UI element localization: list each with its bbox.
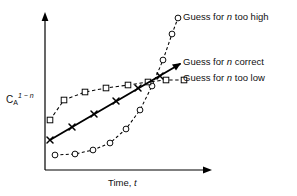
figure-container: CA1 − n Time, t Guess for n too high Gue… [0, 0, 297, 196]
annotation-n-too-low-variable: n [227, 72, 232, 83]
annotation-n-too-high-suffix: too high [235, 11, 269, 22]
x-axis-label: Time, t [108, 178, 137, 188]
y-axis-label-subscript: A [13, 99, 18, 106]
annotation-n-too-low-prefix: Guess for [183, 72, 224, 83]
chart-canvas [0, 0, 297, 196]
annotation-n-correct-prefix: Guess for [183, 56, 224, 67]
annotation-n-correct-suffix: correct [235, 56, 264, 67]
annotation-n-correct-variable: n [227, 56, 232, 67]
annotation-n-correct: Guess for n correct [183, 57, 264, 67]
y-axis-arrowhead [42, 12, 49, 21]
annotation-n-too-high-variable: n [227, 11, 232, 22]
y-axis-label: CA1 − n [6, 92, 34, 106]
x-axis-label-text: Time, [108, 177, 131, 188]
annotation-n-too-low: Guess for n too low [183, 73, 265, 83]
y-axis-label-superscript: 1 − n [18, 92, 34, 99]
annotation-n-too-high: Guess for n too high [183, 12, 269, 22]
annotation-n-too-high-prefix: Guess for [183, 11, 224, 22]
annotation-n-too-low-suffix: too low [235, 72, 265, 83]
axis-group [42, 12, 212, 173]
series-n-correct-arrowhead [172, 63, 181, 71]
x-axis-label-variable: t [134, 177, 137, 188]
x-axis-arrowhead [203, 167, 212, 174]
